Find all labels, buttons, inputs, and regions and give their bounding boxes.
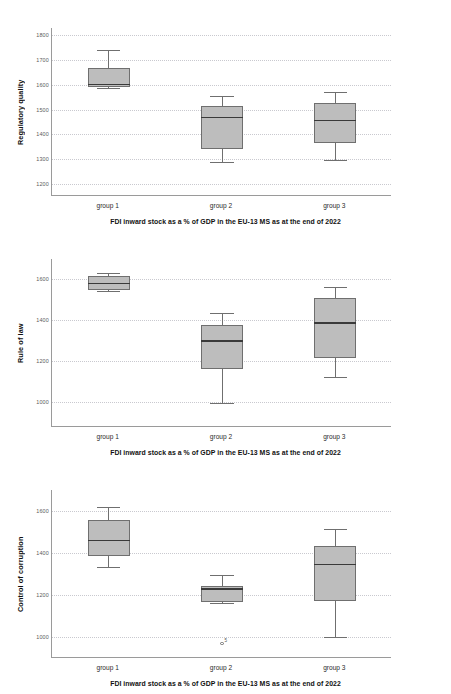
y-axis-tick-label: 1600 bbox=[36, 276, 49, 282]
outlier-label: 5 bbox=[225, 638, 228, 643]
lower-whisker-stem bbox=[335, 358, 336, 377]
upper-whisker-cap bbox=[324, 92, 348, 93]
y-axis-tick-label: 1000 bbox=[36, 399, 49, 405]
boxplot-panel-1: Regulatory qualitygroup 1group 2group 31… bbox=[0, 0, 451, 231]
lower-whisker-stem bbox=[335, 143, 336, 160]
upper-whisker-stem bbox=[335, 92, 336, 103]
lower-whisker-cap bbox=[210, 162, 234, 163]
boxplot-figure-page: Regulatory qualitygroup 1group 2group 31… bbox=[0, 0, 451, 694]
upper-whisker-stem bbox=[108, 507, 109, 520]
x-axis-tick-label: group 2 bbox=[210, 202, 232, 209]
x-axis-tick-label: group 1 bbox=[96, 202, 118, 209]
y-axis-tick-label: 1200 bbox=[36, 358, 49, 364]
lower-whisker-cap bbox=[97, 88, 121, 89]
upper-whisker-stem bbox=[222, 575, 223, 586]
y-axis-tick-label: 1000 bbox=[36, 634, 49, 640]
y-axis-label: Control of corruption bbox=[16, 490, 25, 658]
upper-whisker-stem bbox=[222, 96, 223, 107]
plot-area-wrapper: Rule of lawgroup 1group 2group 310001200… bbox=[0, 231, 451, 441]
median-line bbox=[88, 84, 130, 86]
plot-area: 1000120014001600 bbox=[51, 259, 391, 427]
boxplot-panel-3: Control of corruptiongroup 1group 2group… bbox=[0, 462, 451, 693]
x-axis-tick-label: group 1 bbox=[96, 433, 118, 440]
y-axis-tick-label: 1700 bbox=[36, 57, 49, 63]
median-line bbox=[201, 340, 243, 342]
upper-whisker-stem bbox=[108, 50, 109, 68]
panel-caption: FDI inward stock as a % of GDP in the EU… bbox=[0, 680, 451, 687]
y-axis-tick-label: 1500 bbox=[36, 107, 49, 113]
lower-whisker-cap bbox=[210, 603, 234, 604]
outlier-point bbox=[220, 642, 223, 645]
plot-area-wrapper: Control of corruptiongroup 1group 2group… bbox=[0, 462, 451, 672]
lower-whisker-stem bbox=[108, 556, 109, 567]
lower-whisker-stem bbox=[335, 601, 336, 637]
box-iqr bbox=[88, 520, 130, 556]
upper-whisker-cap bbox=[210, 575, 234, 576]
median-line bbox=[201, 588, 243, 590]
plot-area: 1200130014001500160017001800 bbox=[51, 28, 391, 196]
upper-whisker-stem bbox=[222, 313, 223, 325]
y-axis-tick-label: 1200 bbox=[36, 592, 49, 598]
gridline bbox=[52, 184, 391, 185]
median-line bbox=[314, 120, 356, 122]
boxplot-panel-2: Rule of lawgroup 1group 2group 310001200… bbox=[0, 231, 451, 462]
upper-whisker-cap bbox=[324, 287, 348, 288]
box-iqr bbox=[314, 103, 356, 143]
plot-area: 10001200140016005 bbox=[51, 490, 391, 658]
x-axis-tick-label: group 3 bbox=[323, 202, 345, 209]
y-axis-tick-label: 1400 bbox=[36, 317, 49, 323]
y-axis-tick-label: 1800 bbox=[36, 32, 49, 38]
y-axis-tick-label: 1400 bbox=[36, 550, 49, 556]
lower-whisker-stem bbox=[222, 369, 223, 403]
upper-whisker-cap bbox=[97, 273, 121, 274]
upper-whisker-cap bbox=[324, 529, 348, 530]
upper-whisker-cap bbox=[97, 507, 121, 508]
panel-caption: FDI inward stock as a % of GDP in the EU… bbox=[0, 449, 451, 456]
lower-whisker-cap bbox=[97, 291, 121, 292]
y-axis-label: Rule of law bbox=[16, 259, 25, 427]
panel-caption: FDI inward stock as a % of GDP in the EU… bbox=[0, 218, 451, 225]
y-axis-tick-label: 1600 bbox=[36, 508, 49, 514]
x-axis-tick-label: group 2 bbox=[210, 664, 232, 671]
gridline bbox=[52, 35, 391, 36]
upper-whisker-cap bbox=[210, 313, 234, 314]
upper-whisker-cap bbox=[97, 50, 121, 51]
y-axis-label: Regulatory quality bbox=[16, 28, 25, 196]
lower-whisker-cap bbox=[324, 637, 348, 638]
gridline bbox=[52, 60, 391, 61]
x-axis-tick-label: group 1 bbox=[96, 664, 118, 671]
lower-whisker-cap bbox=[324, 377, 348, 378]
box-iqr bbox=[314, 546, 356, 600]
x-axis-tick-label: group 3 bbox=[323, 433, 345, 440]
lower-whisker-cap bbox=[324, 160, 348, 161]
y-axis-tick-label: 1400 bbox=[36, 131, 49, 137]
median-line bbox=[314, 564, 356, 566]
median-line bbox=[314, 322, 356, 324]
box-iqr bbox=[314, 298, 356, 358]
box-iqr bbox=[201, 106, 243, 149]
median-line bbox=[88, 283, 130, 285]
upper-whisker-stem bbox=[335, 529, 336, 547]
lower-whisker-stem bbox=[222, 149, 223, 162]
plot-area-wrapper: Regulatory qualitygroup 1group 2group 31… bbox=[0, 0, 451, 210]
lower-whisker-cap bbox=[97, 567, 121, 568]
gridline bbox=[52, 511, 391, 512]
upper-whisker-cap bbox=[210, 96, 234, 97]
y-axis-tick-label: 1600 bbox=[36, 82, 49, 88]
box-iqr bbox=[201, 325, 243, 369]
median-line bbox=[88, 540, 130, 542]
y-axis-tick-label: 1200 bbox=[36, 181, 49, 187]
upper-whisker-stem bbox=[335, 287, 336, 299]
x-axis-tick-label: group 3 bbox=[323, 664, 345, 671]
median-line bbox=[201, 117, 243, 119]
x-axis-tick-label: group 2 bbox=[210, 433, 232, 440]
y-axis-tick-label: 1300 bbox=[36, 156, 49, 162]
lower-whisker-cap bbox=[210, 403, 234, 404]
